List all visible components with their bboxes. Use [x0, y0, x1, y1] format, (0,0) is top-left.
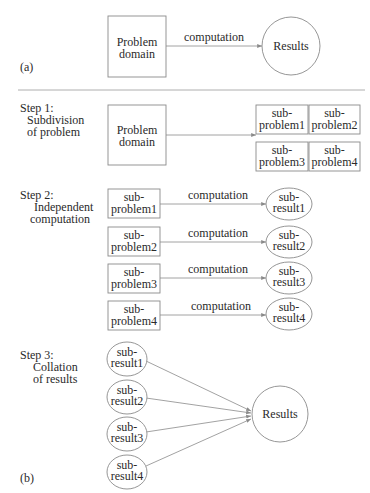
step3-subresult1-line2: result1	[111, 356, 144, 370]
step2-subproblem2-line2: problem2	[111, 240, 157, 254]
step2-subproblem4-line2: problem4	[111, 314, 157, 328]
results-label: Results	[273, 39, 309, 53]
computation-label: computation	[184, 30, 244, 44]
collation-arrow-4	[146, 419, 251, 466]
step1-title-line3: of problem	[27, 125, 81, 139]
step3-subresult4-line2: result4	[111, 469, 144, 483]
collation-arrow-2	[146, 398, 251, 413]
problem-domain-line2: domain	[119, 47, 155, 61]
step2-subproblem1-line2: problem1	[111, 202, 157, 216]
subproblem-grid: sub- problem1 sub- problem2 sub- problem…	[256, 105, 360, 171]
step2-subproblem3-line2: problem3	[111, 277, 157, 291]
step3-title-line3: of results	[33, 372, 78, 386]
step2-subresult1-line2: result1	[273, 201, 306, 215]
step2-title-line3: computation	[30, 212, 90, 226]
step2-row: sub- problem3 computation sub- result3	[108, 262, 312, 294]
step2-computation-label-3: computation	[188, 262, 248, 276]
part-b-label: (b)	[20, 471, 34, 485]
step-2: Step 2: Independent computation sub- pro…	[20, 188, 312, 330]
step2-subresult4-line2: result4	[273, 311, 306, 325]
step3-subresult3-line2: result3	[111, 431, 144, 445]
step2-row: sub- problem4 computation sub- result4	[108, 298, 312, 330]
collation-arrow-3	[146, 416, 251, 432]
collation-arrow-1	[146, 361, 251, 411]
step-1: Step 1: Subdivision of problem Problem d…	[20, 101, 360, 171]
step2-row: sub- problem1 computation sub- result1	[108, 188, 312, 220]
subproblem1-line2: problem1	[259, 118, 305, 132]
subproblem2-line2: problem2	[312, 118, 358, 132]
step2-computation-label-2: computation	[188, 226, 248, 240]
step2-row: sub- problem2 computation sub- result2	[108, 226, 312, 258]
subproblem3-line2: problem3	[259, 155, 305, 169]
step2-computation-label-4: computation	[191, 299, 251, 313]
step2-subresult2-line2: result2	[273, 239, 306, 253]
step2-computation-label-1: computation	[188, 188, 248, 202]
step3-subresult2-line2: result2	[111, 394, 144, 408]
step2-subresult3-line2: result3	[273, 275, 306, 289]
subproblem4-line2: problem4	[312, 155, 358, 169]
step1-problem-domain-line2: domain	[119, 135, 155, 149]
final-results-label: Results	[262, 407, 298, 421]
parallel-computation-diagram: Problem domain computation Results (a) S…	[0, 0, 370, 493]
part-a: Problem domain computation Results (a)	[20, 16, 320, 77]
part-a-label: (a)	[20, 60, 33, 74]
step-3: Step 3: Collation of results sub- result…	[20, 342, 308, 489]
